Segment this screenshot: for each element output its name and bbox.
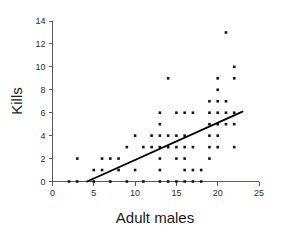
y-tick-label: 12 xyxy=(35,39,45,49)
data-point xyxy=(183,146,186,149)
data-point xyxy=(192,146,195,149)
data-point xyxy=(126,146,129,149)
y-tick-label: 2 xyxy=(40,154,45,164)
data-point xyxy=(117,157,120,160)
data-point xyxy=(142,146,145,149)
data-point xyxy=(167,134,170,137)
data-point xyxy=(216,111,219,114)
data-point xyxy=(159,134,162,137)
data-point xyxy=(150,134,153,137)
data-point xyxy=(233,111,236,114)
data-point xyxy=(76,157,79,160)
data-point xyxy=(142,180,145,183)
data-point xyxy=(109,157,112,160)
data-point xyxy=(233,66,236,69)
data-point xyxy=(233,146,236,149)
data-point xyxy=(192,169,195,172)
data-point xyxy=(208,146,211,149)
y-tick-label: 6 xyxy=(40,108,45,118)
y-axis: 02468101214 xyxy=(35,16,52,187)
x-tick-label: 0 xyxy=(50,188,55,198)
x-tick-label: 5 xyxy=(91,188,96,198)
x-axis: 0510152025 xyxy=(50,182,264,198)
data-point xyxy=(101,157,104,160)
data-point xyxy=(167,180,170,183)
y-tick-label: 14 xyxy=(35,16,45,26)
data-point xyxy=(216,146,219,149)
data-point xyxy=(183,157,186,160)
data-point xyxy=(117,169,120,172)
x-tick-label: 15 xyxy=(171,188,181,198)
data-point xyxy=(225,31,228,34)
x-axis-title: Adult males xyxy=(116,209,194,226)
data-point xyxy=(216,134,219,137)
data-point xyxy=(175,146,178,149)
data-point xyxy=(233,77,236,80)
y-tick-label: 10 xyxy=(35,62,45,72)
y-tick-label: 8 xyxy=(40,85,45,95)
data-point xyxy=(93,180,96,183)
data-point xyxy=(76,180,79,183)
data-point xyxy=(150,146,153,149)
data-point xyxy=(183,169,186,172)
data-point xyxy=(175,157,178,160)
data-point xyxy=(208,100,211,103)
data-point xyxy=(175,111,178,114)
data-point xyxy=(134,134,137,137)
data-point xyxy=(109,180,112,183)
data-point xyxy=(200,180,203,183)
data-point xyxy=(208,134,211,137)
data-point xyxy=(216,77,219,80)
data-point xyxy=(159,123,162,126)
data-point xyxy=(183,180,186,183)
data-point xyxy=(200,169,203,172)
data-point xyxy=(192,111,195,114)
data-point xyxy=(159,180,162,183)
x-tick-label: 25 xyxy=(254,188,264,198)
data-point xyxy=(225,111,228,114)
x-tick-label: 10 xyxy=(130,188,140,198)
plot-canvas: 02468101214 0510152025 Adult males Kills xyxy=(0,0,293,236)
data-point xyxy=(167,77,170,80)
data-point xyxy=(134,169,137,172)
y-axis-title: Kills xyxy=(8,87,25,115)
y-tick-group: 02468101214 xyxy=(35,16,52,187)
data-point xyxy=(216,100,219,103)
scatter-plot-figure: 02468101214 0510152025 Adult males Kills xyxy=(0,0,293,236)
data-point xyxy=(175,134,178,137)
data-point xyxy=(225,100,228,103)
data-point xyxy=(192,180,195,183)
data-point xyxy=(93,169,96,172)
data-point xyxy=(159,111,162,114)
data-point xyxy=(159,169,162,172)
data-point xyxy=(68,180,71,183)
y-tick-label: 4 xyxy=(40,131,45,141)
data-point xyxy=(175,180,178,183)
data-point xyxy=(216,88,219,91)
x-tick-group: 0510152025 xyxy=(50,182,264,198)
data-point xyxy=(126,180,129,183)
data-point xyxy=(208,157,211,160)
data-point xyxy=(159,157,162,160)
y-tick-label: 0 xyxy=(40,177,45,187)
x-tick-label: 20 xyxy=(213,188,223,198)
data-point xyxy=(233,123,236,126)
data-points-group xyxy=(68,31,236,183)
trend-line xyxy=(87,112,242,182)
data-point xyxy=(208,111,211,114)
data-point xyxy=(183,111,186,114)
data-point xyxy=(225,123,228,126)
data-point xyxy=(101,169,104,172)
